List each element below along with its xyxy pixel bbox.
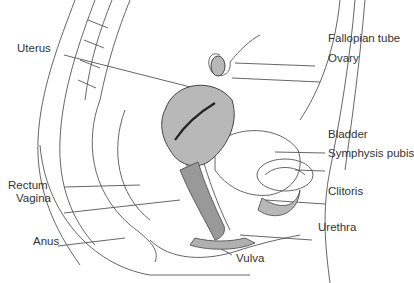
label-ovary: Ovary [328, 53, 359, 65]
clitoris-shape [258, 190, 300, 216]
vulva-shape [190, 238, 255, 249]
label-uterus: Uterus [17, 43, 51, 55]
label-rectum: Rectum [8, 180, 48, 192]
label-fallopian-tube: Fallopian tube [328, 33, 400, 45]
label-symphysis-pubis: Symphysis pubis [328, 148, 414, 160]
uterus-shape [162, 85, 234, 166]
label-vulva: Vulva [236, 253, 264, 265]
label-urethra: Urethra [318, 222, 356, 234]
label-vagina: Vagina [16, 193, 51, 205]
label-anus: Anus [33, 236, 59, 248]
label-clitoris: Clitoris [328, 186, 363, 198]
ovary-shape [211, 56, 225, 76]
label-bladder: Bladder [328, 129, 368, 141]
